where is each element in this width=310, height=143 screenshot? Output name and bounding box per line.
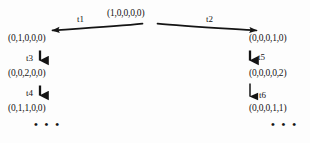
node-right-3-marking: (0,0,0,1,1) (249, 103, 286, 113)
node-right-1-marking: (0,0,0,1,0) (249, 33, 286, 43)
node-root-marking: (1,0,0,0,0) (107, 8, 144, 18)
edge-label-t3: t3 (26, 53, 33, 63)
edge-t1-arrow (53, 24, 143, 31)
edge-t2-arrow (158, 24, 257, 31)
edge-label-t1: t1 (77, 14, 84, 24)
node-left-1-marking: (0,1,0,0,0) (8, 33, 45, 43)
edge-label-t6: t6 (259, 90, 266, 100)
left-branch-continuation-dots: • • • (34, 118, 61, 130)
reachability-tree-diagram: (1,0,0,0,0) t1 t2 t3 t4 t5 t6 (0,1,0,0,0… (0, 0, 310, 143)
edge-label-t2: t2 (206, 14, 213, 24)
node-left-2-marking: (0,0,2,0,0) (8, 68, 45, 78)
node-left-3-marking: (0,1,1,0,0) (8, 103, 45, 113)
node-right-2-marking: (0,0,0,0,2) (249, 68, 286, 78)
right-branch-continuation-dots: • • • (271, 118, 298, 130)
edge-label-t4: t4 (26, 88, 33, 98)
edge-label-t5: t5 (258, 52, 265, 62)
